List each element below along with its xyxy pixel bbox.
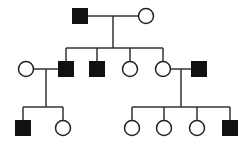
unaffected-female-ii-4	[156, 62, 171, 77]
unaffected-female-iii-5	[190, 121, 205, 136]
pedigree-diagram	[0, 0, 250, 144]
unaffected-female-iii-4	[157, 121, 172, 136]
individuals	[16, 9, 238, 136]
unaffected-female-i-2	[139, 9, 154, 24]
unaffected-female-ii-spouse-1	[19, 62, 34, 77]
unaffected-female-iii-3	[125, 121, 140, 136]
unaffected-female-ii-3	[123, 62, 138, 77]
unaffected-female-iii-2	[56, 121, 71, 136]
affected-male-ii-1	[59, 62, 74, 77]
affected-male-iii-1	[16, 121, 31, 136]
affected-male-i-1	[73, 9, 88, 24]
affected-male-iii-6	[223, 121, 238, 136]
affected-male-ii-spouse-2	[192, 62, 207, 77]
affected-male-ii-2	[90, 62, 105, 77]
